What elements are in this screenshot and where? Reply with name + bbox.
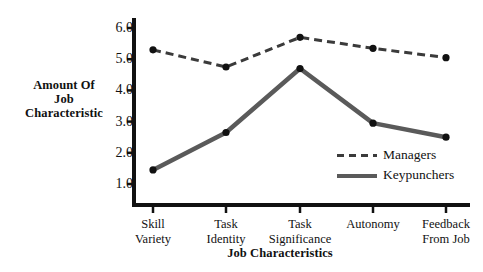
series-line-managers bbox=[153, 37, 446, 67]
chart-legend: Managers Keypunchers bbox=[337, 145, 454, 185]
x-tick-label: Autonomy bbox=[346, 217, 399, 232]
legend-item-keypunchers: Keypunchers bbox=[337, 165, 454, 185]
data-point-managers-1 bbox=[222, 63, 229, 70]
data-point-keypunchers-3 bbox=[369, 120, 376, 127]
data-point-managers-3 bbox=[369, 45, 376, 52]
data-point-managers-2 bbox=[296, 34, 303, 41]
x-axis-title: Job Characteristics bbox=[130, 246, 430, 261]
x-tick-label: TaskIdentity bbox=[207, 217, 246, 247]
legend-label-managers: Managers bbox=[383, 147, 436, 163]
data-point-managers-0 bbox=[149, 46, 156, 53]
data-point-keypunchers-4 bbox=[442, 134, 449, 141]
data-point-managers-4 bbox=[442, 54, 449, 61]
solid-line-swatch-icon bbox=[337, 168, 377, 182]
x-tick-label: FeedbackFrom Job bbox=[422, 217, 470, 247]
x-axis-tick-labels: SkillVarietyTaskIdentityTaskSignificance… bbox=[0, 205, 483, 247]
legend-item-managers: Managers bbox=[337, 145, 454, 165]
chart-figure: Amount Of Job Characteristic 1.02.03.04.… bbox=[0, 0, 483, 272]
x-tick-label: TaskSignificance bbox=[269, 217, 331, 247]
x-tick-label: SkillVariety bbox=[135, 217, 171, 247]
legend-label-keypunchers: Keypunchers bbox=[383, 167, 454, 183]
data-point-keypunchers-2 bbox=[296, 65, 303, 72]
dashed-line-swatch-icon bbox=[337, 148, 377, 162]
data-point-keypunchers-1 bbox=[222, 129, 229, 136]
data-point-keypunchers-0 bbox=[149, 166, 156, 173]
